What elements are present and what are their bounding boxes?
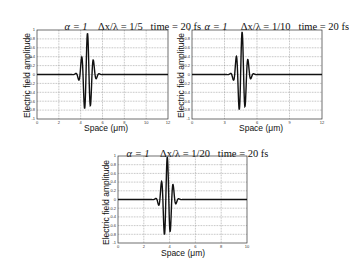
svg-text:0.4: 0.4: [29, 54, 35, 59]
svg-text:0: 0: [33, 72, 36, 77]
svg-text:6: 6: [194, 244, 197, 249]
svg-text:-0.8: -0.8: [183, 107, 191, 112]
svg-text:3: 3: [223, 120, 226, 125]
plot-area-2: 10.80.60.40.20-0.2-0.4-0.6-0.8-1036912: [183, 27, 325, 124]
svg-text:0.6: 0.6: [29, 45, 35, 50]
svg-text:-0.2: -0.2: [183, 81, 191, 86]
svg-text:1: 1: [33, 27, 36, 32]
svg-text:0.2: 0.2: [110, 188, 116, 193]
svg-text:-0.4: -0.4: [183, 90, 191, 95]
svg-text:-0.8: -0.8: [28, 107, 36, 112]
svg-text:0.6: 0.6: [110, 171, 116, 176]
svg-text:8: 8: [123, 120, 126, 125]
svg-text:0.4: 0.4: [110, 179, 116, 184]
svg-text:2: 2: [143, 244, 146, 249]
svg-text:12: 12: [320, 120, 325, 125]
svg-text:0: 0: [188, 72, 191, 77]
svg-text:1: 1: [188, 27, 191, 32]
plot-area-3: 10.80.60.40.20-0.2-0.4-0.6-0.8-10246810: [109, 153, 250, 248]
svg-text:0.8: 0.8: [29, 36, 35, 41]
svg-text:12: 12: [166, 120, 171, 125]
svg-text:0.8: 0.8: [110, 162, 116, 167]
svg-text:-0.4: -0.4: [109, 214, 117, 219]
svg-text:0.2: 0.2: [184, 63, 190, 68]
waveform-line: [118, 157, 247, 235]
svg-text:10: 10: [144, 120, 149, 125]
svg-text:4: 4: [168, 244, 171, 249]
svg-text:1: 1: [114, 153, 117, 158]
svg-text:0.4: 0.4: [184, 54, 190, 59]
svg-text:-0.4: -0.4: [28, 90, 36, 95]
svg-text:0: 0: [36, 120, 39, 125]
svg-text:0: 0: [114, 197, 117, 202]
svg-text:9: 9: [288, 120, 291, 125]
svg-text:6: 6: [256, 120, 259, 125]
svg-text:0.2: 0.2: [29, 63, 35, 68]
svg-text:0: 0: [117, 244, 120, 249]
svg-text:0.6: 0.6: [184, 45, 190, 50]
svg-text:4: 4: [80, 120, 83, 125]
svg-text:10: 10: [245, 244, 250, 249]
svg-text:8: 8: [220, 244, 223, 249]
svg-text:0.8: 0.8: [184, 36, 190, 41]
svg-text:6: 6: [101, 120, 104, 125]
svg-text:-0.6: -0.6: [183, 99, 191, 104]
svg-text:-0.8: -0.8: [109, 232, 117, 237]
svg-text:-0.2: -0.2: [28, 81, 36, 86]
svg-text:0: 0: [191, 120, 194, 125]
plot-area-1: 10.80.60.40.20-0.2-0.4-0.6-0.8-102468101…: [28, 27, 171, 124]
svg-text:-0.6: -0.6: [28, 99, 36, 104]
svg-text:-0.2: -0.2: [109, 206, 117, 211]
svg-text:2: 2: [58, 120, 61, 125]
svg-text:-0.6: -0.6: [109, 223, 117, 228]
